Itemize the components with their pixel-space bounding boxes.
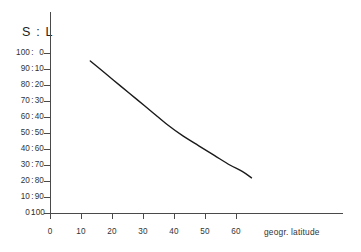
chart-figure: S : L 100:090:1080:2070:3060:4050:5040:6…: [0, 0, 361, 252]
series-line-s-l: [90, 61, 251, 178]
plot-curve-layer: [0, 0, 361, 252]
x-axis-title: geogr. latitude: [264, 228, 320, 237]
